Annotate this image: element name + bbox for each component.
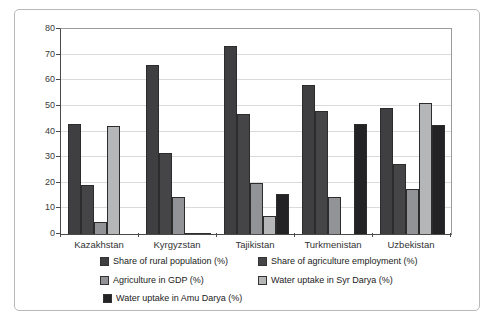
y-tick-label: 0 (25, 228, 55, 238)
legend-swatch-icon (103, 294, 112, 303)
y-tick-mark (56, 131, 60, 132)
bar (302, 85, 315, 234)
x-category-label: Kyrgyzstan (132, 239, 222, 250)
bar (198, 233, 211, 235)
bar (185, 233, 198, 235)
legend-label: Share of agriculture employment (%) (271, 256, 418, 266)
bar (263, 216, 276, 234)
bar (159, 153, 172, 234)
x-tick-mark (450, 233, 451, 237)
gridline (61, 131, 451, 132)
x-category-label: Turkmenistan (288, 239, 378, 250)
y-tick-mark (56, 156, 60, 157)
y-tick-label: 30 (25, 151, 55, 161)
x-tick-mark (216, 233, 217, 237)
bar (354, 124, 367, 234)
bar (94, 222, 107, 234)
legend-item: Agriculture in GDP (%) (100, 275, 204, 285)
bar (146, 65, 159, 234)
legend-swatch-icon (100, 276, 109, 285)
legend-swatch-icon (258, 257, 267, 266)
y-tick-label: 10 (25, 202, 55, 212)
plot-area (60, 28, 452, 235)
legend-item: Water uptake in Amu Darya (%) (103, 293, 242, 303)
bar (224, 46, 237, 234)
bar (172, 197, 185, 234)
y-tick-mark (56, 182, 60, 183)
y-tick-label: 40 (25, 126, 55, 136)
y-tick-label: 80 (25, 23, 55, 33)
y-tick-mark (56, 79, 60, 80)
bar (432, 125, 445, 234)
legend-item: Share of agriculture employment (%) (258, 256, 418, 266)
x-tick-mark (294, 233, 295, 237)
legend-item: Share of rural population (%) (100, 256, 228, 266)
x-tick-mark (138, 233, 139, 237)
x-tick-mark (372, 233, 373, 237)
x-category-label: Kazakhstan (54, 239, 144, 250)
bar (81, 185, 94, 234)
chart-figure: 01020304050607080 KazakhstanKyrgyzstanTa… (0, 0, 493, 326)
gridline (61, 79, 451, 80)
bar (276, 194, 289, 234)
legend-label: Agriculture in GDP (%) (113, 275, 204, 285)
bar (107, 126, 120, 234)
y-tick-mark (56, 28, 60, 29)
x-tick-mark (60, 233, 61, 237)
gridline (61, 54, 451, 55)
bar (250, 183, 263, 234)
x-category-label: Uzbekistan (366, 239, 456, 250)
legend-item: Water uptake in Syr Darya (%) (258, 275, 393, 285)
gridline (61, 105, 451, 106)
legend-label: Water uptake in Amu Darya (%) (116, 293, 242, 303)
bar (419, 103, 432, 234)
bar (328, 197, 341, 234)
y-tick-mark (56, 207, 60, 208)
y-tick-label: 60 (25, 74, 55, 84)
legend-swatch-icon (100, 257, 109, 266)
y-tick-label: 70 (25, 49, 55, 59)
bar (393, 164, 406, 234)
bar (406, 189, 419, 234)
y-tick-label: 50 (25, 100, 55, 110)
x-category-label: Tajikistan (210, 239, 300, 250)
legend-label: Water uptake in Syr Darya (%) (271, 275, 393, 285)
legend-label: Share of rural population (%) (113, 256, 228, 266)
gridline (61, 156, 451, 157)
y-tick-mark (56, 105, 60, 106)
bar (68, 124, 81, 234)
bar (380, 108, 393, 234)
y-tick-mark (56, 54, 60, 55)
legend-swatch-icon (258, 276, 267, 285)
bar (315, 111, 328, 234)
y-tick-label: 20 (25, 177, 55, 187)
bar (237, 114, 250, 234)
